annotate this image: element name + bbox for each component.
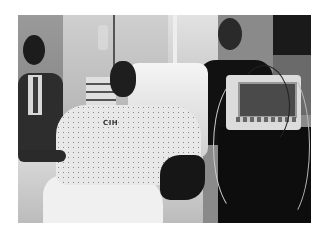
- hospital-photo: CIH: [18, 15, 311, 223]
- gown-label: CIH: [103, 119, 118, 127]
- iv-bag: [98, 25, 108, 50]
- patient-left-arm: [18, 150, 66, 162]
- standing-man-head: [218, 18, 242, 50]
- suited-man-tie: [33, 77, 38, 113]
- monitor-cable: [238, 65, 290, 147]
- dark-window: [273, 15, 311, 60]
- patient-right-hand: [160, 155, 205, 200]
- suited-man-head: [23, 35, 45, 65]
- patient-head: [110, 61, 136, 97]
